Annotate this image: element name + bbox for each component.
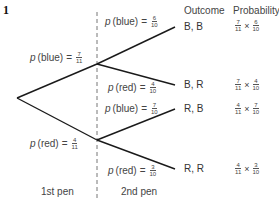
equals-sign: = (140, 82, 146, 93)
denominator: 10 (150, 109, 159, 115)
numerator: 4 (235, 162, 240, 169)
event-label: (red) (116, 82, 137, 93)
denominator: 10 (252, 26, 261, 32)
probability-bb: 711 × 610 (234, 19, 260, 32)
denominator: 10 (150, 22, 159, 28)
times-sign: × (244, 104, 249, 114)
denominator: 11 (75, 58, 83, 64)
numerator: 7 (235, 19, 240, 26)
numerator: 4 (150, 81, 155, 88)
fraction: 411 (71, 137, 79, 150)
prob-prefix: p (108, 165, 114, 176)
fraction: 411 (234, 162, 242, 175)
fraction: 410 (252, 78, 261, 91)
fraction: 711 (234, 19, 242, 32)
label-second-blue-after-red: p (blue) = 710 (105, 102, 159, 115)
stage-label-second-pen: 2nd pen (121, 186, 157, 197)
label-first-red: p (red) = 411 (30, 137, 79, 150)
prob-prefix: p (30, 52, 36, 63)
fraction: 310 (252, 162, 261, 175)
fraction: 710 (150, 102, 159, 115)
outcome-bb: B, B (184, 21, 203, 32)
denominator: 11 (234, 169, 242, 175)
numerator: 7 (76, 51, 81, 58)
outcome-header: Outcome (184, 5, 225, 16)
times-sign: × (244, 80, 249, 90)
prob-prefix: p (105, 103, 111, 114)
equals-sign: = (141, 103, 147, 114)
numerator: 3 (253, 162, 258, 169)
event-label: (red) (38, 138, 59, 149)
numerator: 6 (253, 19, 258, 26)
denominator: 11 (71, 144, 79, 150)
branch-first-blue (17, 64, 97, 98)
denominator: 10 (149, 171, 158, 177)
times-sign: × (244, 21, 249, 31)
numerator: 6 (152, 15, 157, 22)
equals-sign: = (141, 16, 147, 27)
equals-sign: = (62, 138, 68, 149)
probability-rb: 411 × 710 (234, 102, 260, 115)
numerator: 7 (152, 102, 157, 109)
denominator: 10 (149, 88, 158, 94)
fraction: 610 (150, 15, 159, 28)
label-second-blue-after-blue: p (blue) = 610 (105, 15, 159, 28)
numerator: 3 (150, 164, 155, 171)
numerator: 7 (253, 102, 258, 109)
fraction: 310 (149, 164, 158, 177)
numerator: 4 (253, 78, 258, 85)
label-second-red-after-red: p (red) = 310 (108, 164, 157, 177)
fraction: 610 (252, 19, 261, 32)
numerator: 4 (235, 102, 240, 109)
outcome-rb: R, B (184, 103, 203, 114)
event-label: (blue) (113, 103, 139, 114)
equals-sign: = (66, 52, 72, 63)
prob-prefix: p (108, 82, 114, 93)
denominator: 11 (234, 85, 242, 91)
stage-label-first-pen: 1st pen (41, 186, 74, 197)
probability-br: 711 × 410 (234, 78, 260, 91)
denominator: 10 (252, 169, 261, 175)
prob-prefix: p (30, 138, 36, 149)
probability-header: Probability (233, 5, 279, 16)
denominator: 11 (234, 109, 242, 115)
equals-sign: = (140, 165, 146, 176)
event-label: (red) (116, 165, 137, 176)
numerator: 7 (235, 78, 240, 85)
times-sign: × (244, 164, 249, 174)
denominator: 11 (234, 26, 242, 32)
event-label: (blue) (38, 52, 64, 63)
denominator: 10 (252, 109, 261, 115)
fraction: 710 (252, 102, 261, 115)
branch-first-red (17, 98, 97, 140)
branch-blue-blue (97, 27, 175, 64)
fraction: 711 (234, 78, 242, 91)
outcome-br: B, R (184, 79, 203, 90)
fraction: 410 (149, 81, 158, 94)
fraction: 411 (234, 102, 242, 115)
denominator: 10 (252, 85, 261, 91)
event-label: (blue) (113, 16, 139, 27)
label-first-blue: p (blue) = 711 (30, 51, 83, 64)
fraction: 711 (75, 51, 83, 64)
probability-rr: 411 × 310 (234, 162, 260, 175)
label-second-red-after-blue: p (red) = 410 (108, 81, 157, 94)
outcome-rr: R, R (184, 163, 204, 174)
numerator: 4 (72, 137, 77, 144)
prob-prefix: p (105, 16, 111, 27)
